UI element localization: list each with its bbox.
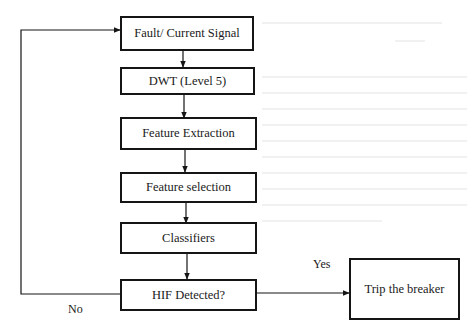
edge-label-no: No — [68, 302, 83, 317]
node-label: DWT (Level 5) — [149, 74, 227, 89]
node-feature-extraction: Feature Extraction — [120, 117, 257, 150]
node-label: Classifiers — [162, 231, 215, 246]
node-label: Feature selection — [146, 180, 231, 195]
node-classifiers: Classifiers — [120, 222, 257, 254]
node-trip-the-breaker: Trip the breaker — [349, 258, 460, 320]
node-dwt-level-5: DWT (Level 5) — [120, 67, 255, 95]
feedback-no-path — [21, 30, 120, 294]
node-label: Fault/ Current Signal — [134, 26, 240, 41]
node-feature-selection: Feature selection — [120, 172, 257, 203]
node-hif-detected-decision: HIF Detected? — [120, 279, 257, 311]
edge-label-yes: Yes — [313, 257, 330, 272]
node-fault-current-signal: Fault/ Current Signal — [120, 16, 254, 51]
node-label: Trip the breaker — [364, 282, 444, 297]
node-label: HIF Detected? — [152, 288, 225, 303]
node-label: Feature Extraction — [142, 126, 235, 141]
